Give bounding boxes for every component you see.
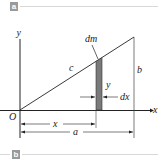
strip-height-label: y bbox=[105, 79, 111, 90]
triangle-moment-diagram: y x O c b dm y dx x a bbox=[0, 0, 161, 167]
dx-right-arrowhead-icon bbox=[103, 96, 107, 99]
dx-left-arrowhead-icon bbox=[91, 96, 95, 99]
a-dim-arrowhead-right-icon bbox=[129, 131, 133, 134]
hypotenuse-line bbox=[20, 37, 134, 110]
dx-label: dx bbox=[120, 91, 130, 102]
height-label: b bbox=[137, 64, 142, 75]
x-dim-arrowhead-right-icon bbox=[91, 123, 95, 126]
panel-divider-b-right bbox=[22, 154, 158, 155]
dm-leader-line bbox=[92, 45, 98, 59]
panel-badge-b: b bbox=[12, 150, 20, 159]
a-dim-arrowhead-left-icon bbox=[21, 131, 25, 134]
x-dim-arrowhead-left-icon bbox=[21, 123, 25, 126]
x-axis-label: x bbox=[152, 104, 158, 115]
a-dimension-label: a bbox=[73, 126, 78, 137]
x-dimension-label: x bbox=[52, 118, 58, 129]
mass-element-strip bbox=[96, 58, 102, 110]
panel-divider-b bbox=[0, 154, 10, 155]
y-axis-label: y bbox=[16, 27, 22, 38]
origin-label: O bbox=[9, 111, 16, 122]
dm-label: dm bbox=[85, 33, 97, 44]
hypotenuse-label: c bbox=[69, 62, 74, 73]
